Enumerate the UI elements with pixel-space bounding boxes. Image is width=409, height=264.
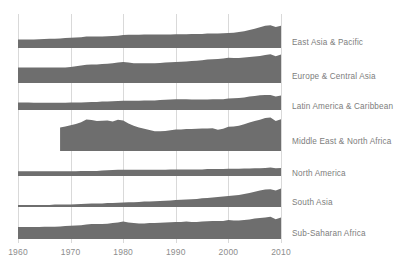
series-band-sub-saharan-africa bbox=[18, 217, 281, 239]
series-bands bbox=[18, 25, 281, 239]
series-band-south-asia bbox=[18, 188, 281, 207]
series-label-latin-america-caribbean: Latin America & Caribbean bbox=[292, 103, 393, 111]
x-tick-label-1980: 1980 bbox=[113, 247, 133, 257]
chart-container: 196019701980199020002010 East Asia & Pac… bbox=[0, 0, 409, 264]
x-tick-label-1970: 1970 bbox=[61, 247, 81, 257]
x-tick-label-2000: 2000 bbox=[219, 247, 239, 257]
series-label-south-asia: South Asia bbox=[292, 199, 333, 207]
x-tick-label-2010: 2010 bbox=[271, 247, 291, 257]
series-label-north-america: North America bbox=[292, 170, 346, 178]
x-tick-label-1960: 1960 bbox=[8, 247, 28, 257]
series-band-latin-america-caribbean bbox=[18, 95, 281, 110]
series-band-north-america bbox=[18, 168, 281, 176]
series-label-middle-east-north-africa: Middle East & North Africa bbox=[292, 138, 391, 146]
series-label-east-asia-pacific: East Asia & Pacific bbox=[292, 39, 363, 47]
series-band-east-asia-pacific bbox=[18, 25, 281, 48]
x-tick-label-1990: 1990 bbox=[166, 247, 186, 257]
series-label-sub-saharan-africa: Sub-Saharan Africa bbox=[292, 230, 366, 238]
series-label-europe-central-asia: Europe & Central Asia bbox=[292, 73, 376, 81]
series-band-europe-central-asia bbox=[18, 54, 281, 83]
series-band-middle-east-north-africa bbox=[60, 117, 281, 151]
